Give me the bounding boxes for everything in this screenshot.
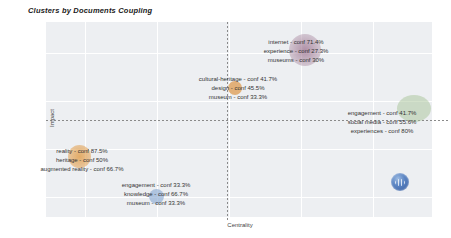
cluster-label: engagement - conf 41.7% — [307, 109, 451, 118]
cluster-label: engagement - conf 33.3% — [81, 181, 231, 190]
cluster-label: design - conf 45.5% — [163, 84, 313, 93]
cluster-labels-reality: reality - conf 87.5% heritage - conf 50%… — [7, 147, 157, 174]
x-axis-label: Centrality — [200, 222, 280, 228]
blue-globe-logo-icon — [391, 173, 409, 191]
y-axis-label: Impact — [49, 98, 55, 138]
cluster-labels-social-media: engagement - conf 41.7% social media - c… — [307, 109, 451, 136]
cluster-label: experience - conf 27.3% — [221, 47, 371, 56]
cluster-labels-internet: internet - conf 71.4% experience - conf … — [221, 38, 371, 65]
cluster-label: experiences - conf 80% — [307, 127, 451, 136]
cluster-label: museums - conf 30% — [221, 56, 371, 65]
cluster-label: internet - conf 71.4% — [221, 38, 371, 47]
cluster-label: augmented reality - conf 66.7% — [7, 165, 157, 174]
chart-title: Clusters by Documents Coupling — [28, 6, 152, 15]
cluster-label: knowledge - conf 66.7% — [81, 190, 231, 199]
cluster-quadrant-chart: Clusters by Documents Coupling Impact Ce… — [0, 0, 451, 238]
cluster-label: social media - conf 55.6% — [307, 118, 451, 127]
cluster-label: reality - conf 87.5% — [7, 147, 157, 156]
cluster-label: cultural-heritage - conf 41.7% — [163, 75, 313, 84]
cluster-label: museum - conf 33.3% — [81, 199, 231, 208]
cluster-labels-knowledge: engagement - conf 33.3% knowledge - conf… — [81, 181, 231, 208]
cluster-label: museum - conf 33.3% — [163, 93, 313, 102]
cluster-label: heritage - conf 50% — [7, 156, 157, 165]
cluster-labels-cultural-heritage: cultural-heritage - conf 41.7% design - … — [163, 75, 313, 102]
